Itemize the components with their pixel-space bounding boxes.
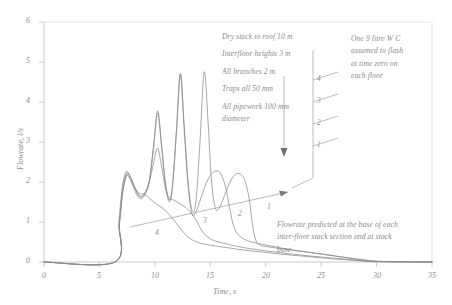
base-line-2: inter-floor stack section and at stack [277,231,398,243]
x-tick-5: 5 [89,271,109,280]
y-axis-title: Flowrate, l/s [16,128,25,170]
y-tick-0: 0 [20,256,36,265]
y-tick-6: 6 [20,16,36,25]
spec-annotation: Dry stack to roof 10 m Interfloor height… [222,31,292,125]
x-tick-15: 15 [200,271,220,280]
wc-line-4: each floor [351,70,403,82]
wc-line-3: at time zero on [351,58,403,70]
y-tick-2: 2 [20,176,36,185]
y-tick-4: 4 [20,96,36,105]
curve-label-2: 2 [238,209,242,218]
y-tick-5: 5 [20,56,36,65]
spec-line-4: Traps all 50 mm [222,83,292,95]
wc-line-2: assumed to flash [351,45,403,57]
y-tick-1: 1 [20,216,36,225]
chart-figure: 0 1 2 3 4 5 6 0 5 10 15 20 25 30 35 Flow… [0,0,452,305]
y-axis-ticks [39,22,44,262]
x-tick-30: 30 [367,271,387,280]
wc-line-1: One 9 litre W C [351,33,403,45]
stack-floor-label-1: 1 [317,140,321,149]
x-tick-35: 35 [422,271,442,280]
base-line-3: base [277,244,398,256]
base-flowrate-annotation: Flowrate predicted at the base of each i… [277,219,398,256]
base-line-1: Flowrate predicted at the base of each [277,219,398,231]
spec-line-5: All pipework 100 mm [222,101,292,113]
callout-arrow [130,191,288,228]
x-tick-0: 0 [34,271,54,280]
x-tick-20: 20 [256,271,276,280]
spec-line-2: Interfloor heights 3 m [222,48,292,60]
spec-line-3: All branches 2 m [222,66,292,78]
x-tick-25: 25 [311,271,331,280]
spec-line-6: diameter [222,113,292,125]
spec-line-1: Dry stack to roof 10 m [222,31,292,43]
curve-label-4: 4 [155,228,159,237]
x-axis-title: Time, s [213,287,236,296]
curve-label-3: 3 [203,216,207,225]
stack-floor-label-2: 2 [317,118,321,127]
x-tick-10: 10 [145,271,165,280]
stack-floor-label-3: 3 [317,96,321,105]
stack-floor-label-4: 4 [317,74,321,83]
wc-flush-annotation: One 9 litre W C assumed to flash at time… [351,33,403,83]
curve-label-1: 1 [267,202,271,211]
